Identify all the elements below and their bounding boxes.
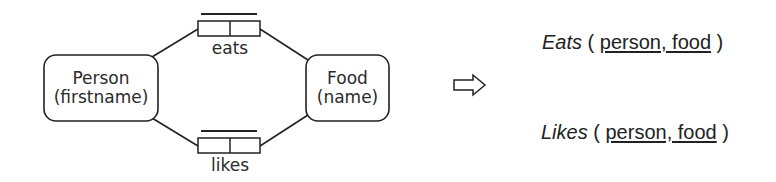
relation-likes-name: Likes bbox=[541, 121, 588, 143]
relationship-eats-label: eats bbox=[212, 38, 249, 58]
relationship-likes: likes bbox=[198, 131, 260, 175]
relation-eats-close-paren: ) bbox=[711, 31, 723, 53]
entity-person-key: (firstname) bbox=[54, 87, 149, 107]
relation-likes: Likes ( person, food ) bbox=[541, 122, 729, 142]
relation-eats: Eats ( person, food ) bbox=[542, 32, 723, 52]
relationship-eats: eats bbox=[198, 14, 260, 58]
right-arrow-icon bbox=[454, 75, 485, 95]
entity-food-name: Food bbox=[327, 68, 368, 88]
relation-likes-open-paren: ( bbox=[588, 121, 606, 143]
entity-food: Food (name) bbox=[306, 55, 389, 121]
entity-person: Person (firstname) bbox=[44, 55, 158, 121]
relation-eats-name: Eats bbox=[542, 31, 582, 53]
entity-food-key: (name) bbox=[317, 87, 378, 107]
relation-likes-close-paren: ) bbox=[717, 121, 729, 143]
entity-person-name: Person bbox=[72, 68, 129, 88]
relationship-likes-box bbox=[198, 138, 260, 153]
line-person-likes bbox=[152, 118, 198, 146]
relationship-eats-box bbox=[198, 21, 260, 36]
line-likes-food bbox=[260, 115, 308, 146]
relation-likes-keys: person, food bbox=[605, 121, 716, 143]
line-eats-food bbox=[260, 29, 308, 60]
line-person-eats bbox=[152, 29, 198, 57]
relationship-likes-label: likes bbox=[211, 155, 249, 175]
relation-eats-open-paren: ( bbox=[582, 31, 600, 53]
er-diagram: Person (firstname) Food (name) eats like… bbox=[0, 0, 776, 182]
relation-eats-keys: person, food bbox=[600, 31, 711, 53]
